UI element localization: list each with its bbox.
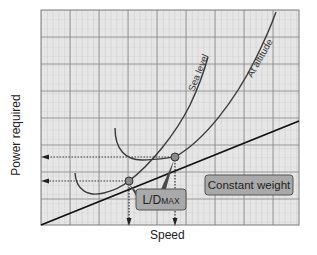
ld-max-label: L/D: [142, 193, 161, 207]
constant-weight-callout: Constant weight: [205, 175, 293, 195]
constant-weight-label: Constant weight: [208, 179, 291, 191]
y-axis-label: Power required: [9, 94, 23, 175]
svg-text:L/DMAX: L/DMAX: [142, 193, 179, 207]
altitude-ld-max-point: [171, 153, 179, 161]
ld-max-subscript: MAX: [161, 196, 180, 206]
ld-max-callout: L/DMAX: [136, 189, 186, 210]
sea-level-ld-max-point: [125, 177, 133, 185]
x-axis-label: Speed: [150, 228, 185, 242]
power-required-chart: L/DMAX Constant weight Sea level At alti…: [0, 0, 317, 255]
y-axis-label-wrap: Power required: [6, 55, 26, 215]
